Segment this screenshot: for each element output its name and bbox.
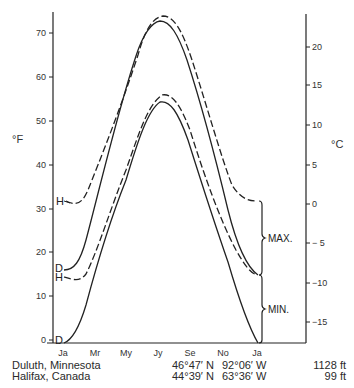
climate-chart: 0 10 20 30 40 50 60 70 °F 20 15 10 5 0 −…	[0, 0, 354, 360]
tick-label: 10	[36, 291, 46, 301]
tick-label: 5	[312, 160, 317, 170]
month-label: Jy	[154, 348, 164, 358]
month-label: Ja	[58, 348, 68, 358]
tick-label: 15	[312, 80, 322, 90]
tick-label: 70	[36, 28, 46, 38]
tick-label: 0	[312, 199, 317, 209]
max-label: MAX.	[268, 233, 292, 244]
tick-label: −10	[312, 278, 327, 288]
brace	[259, 201, 265, 343]
halifax-min-curve	[64, 95, 257, 280]
month-labels: Ja Mr My Jy Se No Ja	[58, 348, 262, 358]
right-tick-labels: 20 15 10 5 0 − 5 −10 −15	[312, 42, 327, 327]
month-label: Ja	[252, 348, 262, 358]
station-row-halifax: Halifax, Canada 44°39′ N 63°36′ W 99 ft	[0, 371, 354, 383]
tick-label: 10	[312, 120, 322, 130]
label-h-min: H	[55, 271, 63, 283]
halifax-max-curve	[66, 16, 257, 203]
tick-label: 20	[36, 247, 46, 257]
right-axis-unit: °C	[331, 138, 343, 150]
tick-label: −15	[312, 317, 327, 327]
min-label: MIN.	[268, 304, 289, 315]
tick-label: 60	[36, 72, 46, 82]
station-name: Halifax, Canada	[12, 371, 90, 382]
month-label: Mr	[90, 348, 101, 358]
duluth-min-curve	[64, 102, 258, 343]
tick-label: − 5	[312, 238, 325, 248]
label-h-max: H	[56, 195, 64, 207]
tick-label: 20	[312, 42, 322, 52]
left-tick-labels: 0 10 20 30 40 50 60 70	[36, 28, 46, 345]
tick-label: 50	[36, 116, 46, 126]
label-d-min: D	[55, 334, 63, 346]
month-label: My	[120, 348, 132, 358]
month-label: Se	[184, 348, 195, 358]
left-axis-unit: °F	[12, 133, 23, 145]
tick-label: 0	[41, 335, 46, 345]
station-latitude: 44°39′ N	[172, 371, 214, 382]
tick-label: 30	[36, 204, 46, 214]
tick-label: 40	[36, 160, 46, 170]
station-elevation: 99 ft	[325, 371, 346, 382]
station-longitude: 63°36′ W	[222, 371, 266, 382]
month-label: No	[217, 348, 229, 358]
